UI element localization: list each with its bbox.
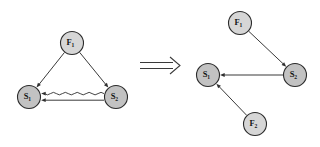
after-graph: F1 S2 S1 F2 — [197, 12, 307, 136]
edge-f2-to-s1 — [216, 84, 246, 116]
edge-line — [39, 52, 65, 84]
arrowhead-icon — [41, 98, 46, 102]
edge-f1-to-s2 — [80, 52, 109, 87]
node-f2[interactable]: F2 — [244, 113, 267, 136]
node-s1[interactable]: S1 — [197, 64, 220, 87]
edge-s2-to-s1-straight — [41, 98, 104, 102]
transformation-figure: F1 S1 S2 — [0, 0, 320, 147]
before-graph: F1 S1 S2 — [18, 32, 128, 109]
implies-arrowhead — [170, 57, 180, 74]
implies-double-arrow-icon — [140, 57, 180, 74]
node-f1[interactable]: F1 — [229, 12, 252, 35]
node-f1[interactable]: F1 — [61, 32, 84, 55]
edge-s2-to-s1-wavy — [41, 92, 104, 96]
edge-line — [219, 86, 247, 115]
wavy-edge-path — [45, 92, 105, 95]
edge-line — [80, 52, 107, 85]
edge-s2-to-s1 — [220, 73, 283, 77]
edge-line — [249, 31, 284, 64]
edge-f1-to-s1 — [37, 52, 65, 87]
node-s2[interactable]: S2 — [105, 86, 128, 109]
edge-f1-to-s2 — [249, 31, 286, 66]
node-s2[interactable]: S2 — [284, 64, 307, 87]
arrowhead-icon — [220, 73, 225, 77]
node-s1[interactable]: S1 — [18, 86, 41, 109]
arrowhead-icon — [41, 92, 46, 96]
